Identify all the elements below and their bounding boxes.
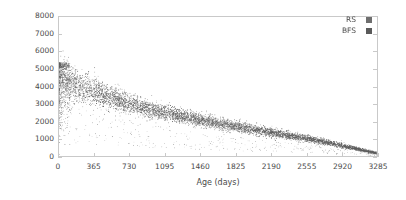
x-tick-mark — [378, 153, 379, 157]
y-tick-mark — [58, 157, 62, 158]
y-tick-label: 8000 — [2, 12, 54, 20]
chart-legend: RS BFS — [316, 14, 372, 36]
y-tick-mark-right — [373, 87, 377, 88]
x-axis-tick-labels: 03657301095146018252190255529203285 — [0, 162, 406, 174]
legend-item-bfs[interactable]: BFS — [316, 25, 372, 36]
legend-swatch-bfs — [366, 28, 372, 34]
y-tick-mark — [58, 34, 62, 35]
y-tick-label: 5000 — [2, 65, 54, 73]
y-tick-mark-right — [373, 157, 377, 158]
plot-area — [58, 16, 378, 157]
x-tick-mark — [129, 153, 130, 157]
x-tick-mark — [236, 153, 237, 157]
x-tick-mark — [58, 153, 59, 157]
y-tick-label: 0 — [2, 153, 54, 161]
y-tick-mark-right — [373, 51, 377, 52]
y-tick-label: 3000 — [2, 100, 54, 108]
chart-figure: Videos per day 0100020003000400050006000… — [0, 0, 406, 200]
x-axis-title: Age (days) — [58, 178, 378, 187]
legend-label-bfs: BFS — [342, 25, 356, 36]
y-tick-mark-right — [373, 104, 377, 105]
legend-label-rs: RS — [346, 14, 356, 25]
y-tick-mark-right — [373, 69, 377, 70]
x-tick-mark — [271, 153, 272, 157]
x-tick-mark — [342, 153, 343, 157]
y-tick-mark — [58, 69, 62, 70]
y-tick-label: 1000 — [2, 135, 54, 143]
legend-swatch-rs — [366, 17, 372, 23]
y-tick-label: 6000 — [2, 47, 54, 55]
x-tick-label: 3285 — [356, 162, 400, 171]
y-tick-mark-right — [373, 16, 377, 17]
y-tick-mark — [58, 122, 62, 123]
y-tick-label: 4000 — [2, 83, 54, 91]
x-tick-mark — [200, 153, 201, 157]
legend-item-rs[interactable]: RS — [316, 14, 372, 25]
x-tick-mark — [307, 153, 308, 157]
y-tick-mark — [58, 104, 62, 105]
y-tick-mark — [58, 51, 62, 52]
x-tick-mark — [165, 153, 166, 157]
y-tick-mark-right — [373, 34, 377, 35]
y-tick-label: 2000 — [2, 118, 54, 126]
y-tick-mark-right — [373, 139, 377, 140]
y-tick-mark-right — [373, 122, 377, 123]
y-tick-mark — [58, 87, 62, 88]
scatter-canvas — [59, 17, 377, 156]
y-tick-mark — [58, 139, 62, 140]
x-tick-mark — [94, 153, 95, 157]
y-tick-mark — [58, 16, 62, 17]
y-tick-label: 7000 — [2, 30, 54, 38]
